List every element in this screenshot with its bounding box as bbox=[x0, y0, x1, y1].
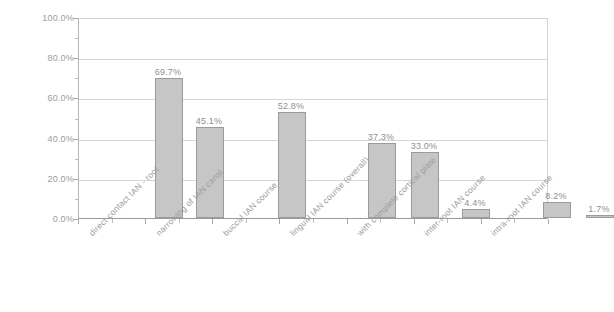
x-axis-minor-tick bbox=[514, 219, 515, 223]
x-axis-tick bbox=[548, 219, 549, 224]
x-axis-tick bbox=[481, 219, 482, 224]
x-axis-tick bbox=[78, 219, 79, 224]
bar-value-label: 4.4% bbox=[464, 198, 485, 208]
bar-value-label: 69.7% bbox=[155, 67, 182, 77]
bar-value-label: 33.0% bbox=[411, 141, 438, 151]
y-tick-label-20: 20.0% bbox=[12, 174, 74, 184]
y-tick-label-60: 60.0% bbox=[12, 93, 74, 103]
x-axis-tick bbox=[212, 219, 213, 224]
y-tick-label-100: 100.0% bbox=[12, 13, 74, 23]
bar bbox=[586, 215, 614, 218]
bar-value-label: 8.2% bbox=[545, 191, 566, 201]
y-tick-label-80: 80.0% bbox=[12, 53, 74, 63]
bar-value-label: 52.8% bbox=[278, 101, 305, 111]
y-axis: 0.0% 20.0% 40.0% 60.0% 80.0% 100.0% bbox=[8, 18, 74, 219]
y-tick-label-40: 40.0% bbox=[12, 134, 74, 144]
bar-value-label: 1.7% bbox=[588, 204, 609, 214]
x-axis-tick bbox=[347, 219, 348, 224]
bar-value-label: 37.3% bbox=[368, 132, 395, 142]
bar-value-label: 45.1% bbox=[196, 116, 223, 126]
y-tick-label-0: 0.0% bbox=[12, 214, 74, 224]
x-axis-tick bbox=[414, 219, 415, 224]
x-axis-minor-tick bbox=[447, 219, 448, 223]
x-axis-tick bbox=[145, 219, 146, 224]
x-axis-tick bbox=[279, 219, 280, 224]
